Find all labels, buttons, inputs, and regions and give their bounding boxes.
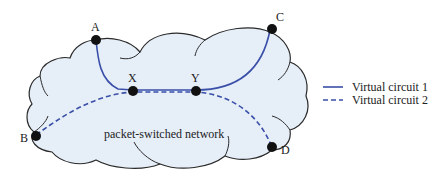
node-c [267, 24, 277, 34]
node-x [128, 86, 138, 96]
network-label: packet-switched network [104, 128, 224, 140]
label-node-y: Y [191, 72, 200, 84]
node-d [267, 142, 277, 152]
legend-item-vc2: Virtual circuit 2 [352, 94, 428, 106]
node-y [191, 86, 201, 96]
label-node-d: D [281, 144, 290, 156]
node-a [91, 35, 101, 45]
legend-item-vc1: Virtual circuit 1 [352, 81, 428, 93]
cloud-shape [27, 28, 308, 169]
node-b [31, 131, 41, 141]
label-node-c: C [276, 11, 284, 23]
label-node-x: X [128, 72, 137, 84]
label-node-b: B [20, 132, 28, 144]
label-node-a: A [91, 21, 100, 33]
